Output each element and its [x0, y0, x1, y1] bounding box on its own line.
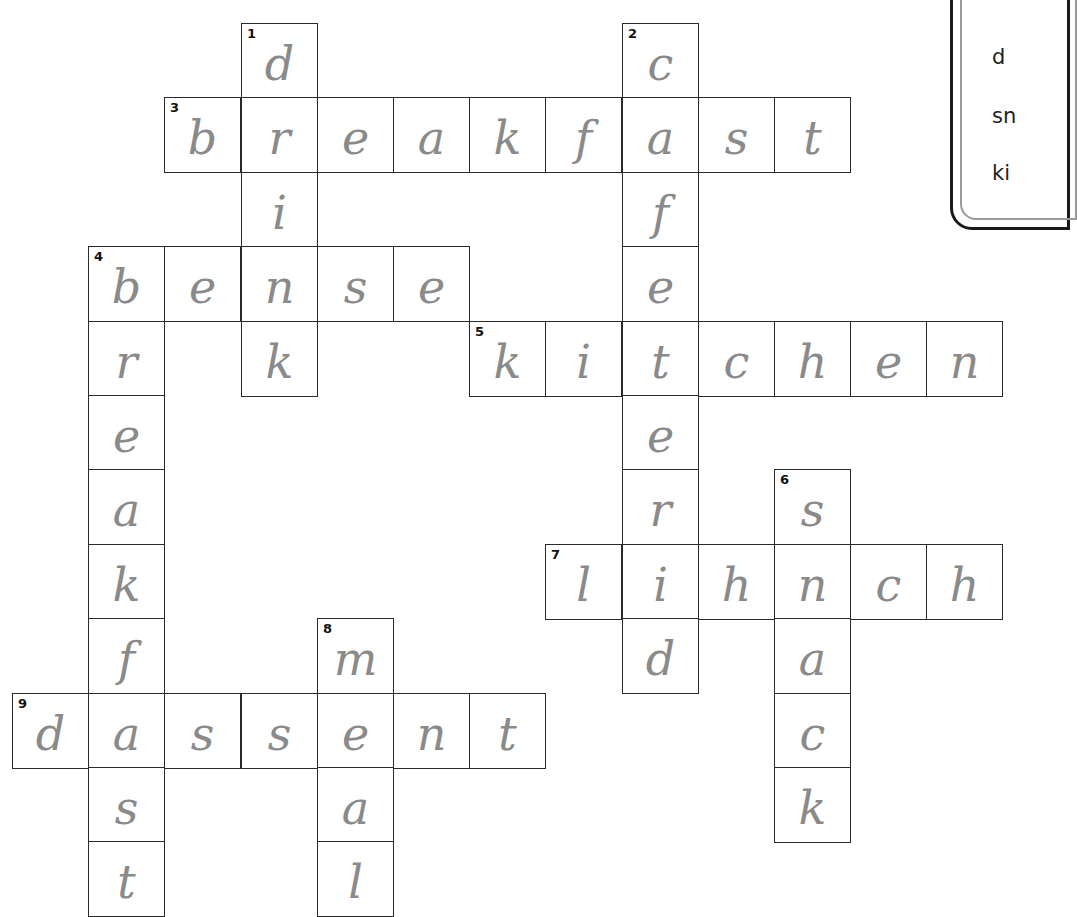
crossword-cell[interactable]: e	[164, 246, 241, 322]
handwritten-letter: l	[546, 551, 621, 619]
crossword-cell[interactable]: s	[88, 767, 165, 843]
crossword-cell[interactable]: e	[317, 97, 394, 173]
crossword-cell[interactable]: a	[88, 469, 165, 545]
crossword-cell[interactable]: r	[241, 97, 318, 173]
crossword-cell[interactable]: 5k	[469, 321, 546, 397]
handwritten-letter: s	[775, 476, 850, 544]
handwritten-letter: t	[470, 700, 545, 768]
handwritten-letter: e	[165, 253, 240, 321]
word-bank-word: ki	[992, 161, 1010, 185]
crossword-cell[interactable]: h	[774, 321, 851, 397]
word-bank-word: d	[992, 45, 1005, 69]
crossword-cell[interactable]: a	[88, 693, 165, 769]
crossword-cell[interactable]: 1d	[241, 23, 318, 99]
handwritten-letter: k	[470, 328, 545, 396]
handwritten-letter: n	[394, 700, 469, 768]
crossword-cell[interactable]: a	[622, 97, 699, 173]
crossword-cell[interactable]: 6s	[774, 469, 851, 545]
crossword-cell[interactable]: n	[926, 321, 1003, 397]
crossword-cell[interactable]: c	[774, 693, 851, 769]
crossword-cell[interactable]: k	[469, 97, 546, 173]
crossword-cell[interactable]: n	[241, 246, 318, 322]
crossword-cell[interactable]: 4b	[88, 246, 165, 322]
crossword-cell[interactable]: t	[88, 841, 165, 917]
crossword-cell[interactable]: f	[88, 618, 165, 694]
crossword-cell[interactable]: s	[241, 693, 318, 769]
crossword-cell[interactable]: r	[622, 469, 699, 545]
crossword-cell[interactable]: t	[774, 97, 851, 173]
handwritten-letter: e	[623, 253, 698, 321]
crossword-cell[interactable]: 8m	[317, 618, 394, 694]
handwritten-letter: k	[242, 328, 317, 396]
handwritten-letter: k	[775, 774, 850, 842]
handwritten-letter: i	[546, 328, 621, 396]
crossword-cell[interactable]: e	[317, 693, 394, 769]
handwritten-letter: n	[927, 328, 1002, 396]
crossword-cell[interactable]: s	[317, 246, 394, 322]
handwritten-letter: i	[242, 179, 317, 247]
handwritten-letter: t	[623, 328, 698, 396]
handwritten-letter: a	[394, 104, 469, 172]
handwritten-letter: n	[775, 551, 850, 619]
crossword-cell[interactable]: f	[622, 172, 699, 248]
handwritten-letter: f	[623, 179, 698, 247]
crossword-cell[interactable]: d	[622, 618, 699, 694]
handwritten-letter: e	[623, 402, 698, 470]
handwritten-letter: a	[89, 700, 164, 768]
crossword-cell[interactable]: t	[469, 693, 546, 769]
crossword-cell[interactable]: h	[698, 544, 775, 620]
crossword-cell[interactable]: e	[622, 246, 699, 322]
handwritten-letter: a	[89, 476, 164, 544]
crossword-cell[interactable]: a	[317, 767, 394, 843]
crossword-cell[interactable]: l	[317, 841, 394, 917]
crossword-cell[interactable]: i	[622, 544, 699, 620]
handwritten-letter: d	[13, 700, 88, 768]
crossword-cell[interactable]: i	[545, 321, 622, 397]
handwritten-letter: c	[623, 30, 698, 98]
handwritten-letter: c	[775, 700, 850, 768]
crossword-cell[interactable]: r	[88, 321, 165, 397]
crossword-cell[interactable]: 9d	[12, 693, 89, 769]
crossword-cell[interactable]: s	[698, 97, 775, 173]
handwritten-letter: i	[623, 551, 698, 619]
handwritten-letter: t	[775, 104, 850, 172]
crossword-cell[interactable]: c	[850, 544, 927, 620]
crossword-cell[interactable]: c	[698, 321, 775, 397]
handwritten-letter: e	[318, 104, 393, 172]
crossword-cell[interactable]: n	[774, 544, 851, 620]
crossword-cell[interactable]: k	[88, 544, 165, 620]
handwritten-letter: r	[623, 476, 698, 544]
handwritten-letter: n	[242, 253, 317, 321]
handwritten-letter: t	[89, 848, 164, 916]
handwritten-letter: a	[318, 774, 393, 842]
crossword-cell[interactable]: e	[393, 246, 470, 322]
crossword-cell[interactable]: k	[774, 767, 851, 843]
handwritten-letter: f	[89, 625, 164, 693]
handwritten-letter: k	[470, 104, 545, 172]
handwritten-letter: e	[318, 700, 393, 768]
crossword-cell[interactable]: e	[622, 395, 699, 471]
crossword-cell[interactable]: i	[241, 172, 318, 248]
crossword-cell[interactable]: 3b	[164, 97, 241, 173]
crossword-cell[interactable]: a	[393, 97, 470, 173]
handwritten-letter: e	[89, 402, 164, 470]
crossword-cell[interactable]: 7l	[545, 544, 622, 620]
handwritten-letter: r	[242, 104, 317, 172]
crossword-cell[interactable]: e	[850, 321, 927, 397]
crossword-cell[interactable]: a	[774, 618, 851, 694]
crossword-cell[interactable]: s	[164, 693, 241, 769]
crossword-cell[interactable]: e	[88, 395, 165, 471]
handwritten-letter: d	[242, 30, 317, 98]
crossword-cell[interactable]: f	[545, 97, 622, 173]
crossword-cell[interactable]: h	[926, 544, 1003, 620]
crossword-cell[interactable]: k	[241, 321, 318, 397]
handwritten-letter: f	[546, 104, 621, 172]
handwritten-letter: a	[623, 104, 698, 172]
crossword-cell[interactable]: 2c	[622, 23, 699, 99]
handwritten-letter: m	[318, 625, 393, 693]
handwritten-letter: a	[775, 625, 850, 693]
handwritten-letter: l	[318, 848, 393, 916]
crossword-cell[interactable]: n	[393, 693, 470, 769]
crossword-cell[interactable]: t	[622, 321, 699, 397]
